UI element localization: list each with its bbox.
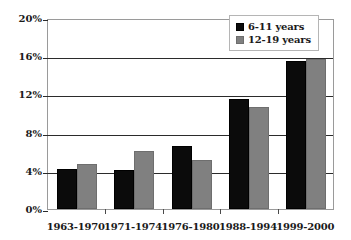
bar: [57, 169, 77, 209]
x-axis-tickmark: [163, 209, 164, 214]
y-axis-tickmark: [43, 135, 48, 136]
legend-entry: 12-19 years: [236, 33, 311, 46]
bar: [229, 99, 249, 209]
x-axis-tickmark: [105, 209, 106, 214]
x-axis-tickmark: [278, 209, 279, 214]
y-axis-tickmark: [43, 96, 48, 97]
bar: [77, 164, 97, 209]
y-axis-tick-label: 4%: [0, 167, 42, 177]
y-axis-tick-label: 0%: [0, 205, 42, 215]
y-axis-tickmark: [43, 20, 48, 21]
gridline: [48, 58, 333, 59]
y-axis-tickmark: [43, 173, 48, 174]
bar: [134, 151, 154, 209]
x-axis-tickmark: [220, 209, 221, 214]
bar-chart: 0%4%8%12%16%20% 1963-19701971-19741976-1…: [0, 0, 351, 240]
legend: 6-11 years12-19 years: [229, 15, 319, 51]
bar: [192, 160, 212, 209]
y-axis-tickmark: [43, 58, 48, 59]
legend-swatch-icon: [236, 23, 244, 31]
legend-label: 6-11 years: [248, 21, 304, 32]
bar: [249, 107, 269, 209]
y-axis-tick-label: 16%: [0, 52, 42, 62]
y-axis-tick-label: 8%: [0, 129, 42, 139]
y-axis-tick-label: 20%: [0, 14, 42, 24]
legend-label: 12-19 years: [248, 34, 311, 45]
y-axis-tickmark: [43, 211, 48, 212]
legend-entry: 6-11 years: [236, 20, 311, 33]
x-axis-category-label: 1999-2000: [271, 221, 340, 232]
bar: [286, 61, 306, 209]
bar: [306, 59, 326, 209]
bar: [114, 170, 134, 209]
y-axis-tick-label: 12%: [0, 90, 42, 100]
legend-swatch-icon: [236, 36, 244, 44]
bar: [172, 146, 192, 209]
